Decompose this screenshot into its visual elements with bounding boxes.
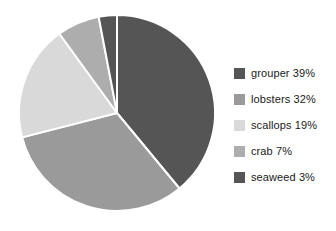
legend-swatch-icon [234,94,245,105]
legend-item-label: crab 7% [251,145,292,157]
legend-item[interactable]: lobsters 32% [234,86,336,112]
legend-item-label: lobsters 32% [251,93,316,105]
legend-item-label: seaweed 3% [251,171,315,183]
legend-item[interactable]: seaweed 3% [234,164,336,190]
pie-chart-svg [0,0,228,231]
pie-chart-plot-area [0,0,228,231]
pie-slice-group [19,15,215,211]
chart-legend: grouper 39%lobsters 32%scallops 19%crab … [234,60,336,190]
legend-item[interactable]: crab 7% [234,138,336,164]
legend-swatch-icon [234,172,245,183]
legend-item-label: grouper 39% [251,67,315,79]
legend-swatch-icon [234,146,245,157]
legend-swatch-icon [234,120,245,131]
pie-chart-figure: grouper 39%lobsters 32%scallops 19%crab … [0,0,336,231]
legend-swatch-icon [234,68,245,79]
legend-item[interactable]: grouper 39% [234,60,336,86]
legend-item-label: scallops 19% [251,119,317,131]
legend-item[interactable]: scallops 19% [234,112,336,138]
